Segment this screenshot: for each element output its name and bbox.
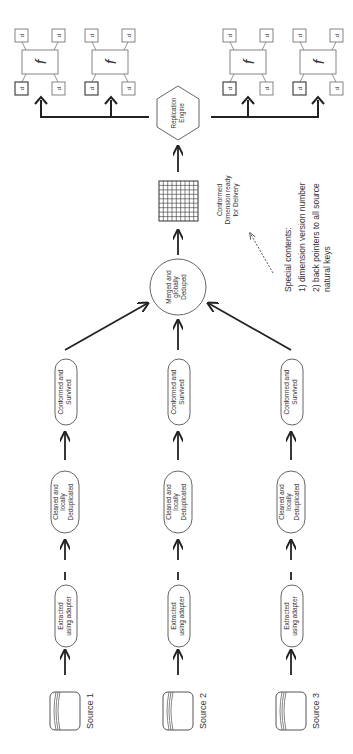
extract-step: Extracted using adapter [168, 585, 190, 647]
svg-text:Survived: Survived [178, 379, 185, 405]
svg-text:Deduplicated: Deduplicated [180, 483, 188, 520]
database-cylinder-icon [276, 692, 306, 730]
dimension-icon: d [334, 87, 340, 90]
source-2-column: Source 2 Extracted using adapter Cleaned… [163, 359, 208, 730]
svg-text:Deduplicated: Deduplicated [67, 483, 75, 520]
database-cylinder-icon [50, 692, 80, 730]
dimension-flow-diagram: Source 1 Extracted using adapter Cleaned… [0, 0, 353, 754]
star-schema-4: f d d d d [293, 29, 343, 95]
annotation-pointer [250, 233, 273, 273]
svg-text:Extracted: Extracted [170, 602, 177, 630]
svg-text:Extracted: Extracted [57, 602, 64, 630]
dimension-icon: d [126, 34, 132, 37]
svg-text:Dimension ready: Dimension ready [224, 175, 232, 225]
arrow-to-merge [208, 303, 291, 350]
svg-text:for Delivery: for Delivery [232, 183, 240, 217]
dimension-table-grid-icon [159, 181, 198, 221]
clean-step: Cleaned and locally Deduplicated [51, 471, 79, 533]
svg-text:Survived: Survived [291, 379, 298, 405]
conformed-dimension-label: Conformed Dimension ready for Delivery [216, 175, 240, 225]
svg-text:Cleaned and: Cleaned and [278, 484, 285, 520]
replication-engine: Replication Engine [157, 86, 199, 140]
clean-step: Cleaned and locally Deduplicated [277, 471, 305, 533]
arrow-to-merge [65, 303, 148, 350]
dimension-icon: d [89, 34, 95, 37]
dimension-icon: d [334, 34, 340, 37]
svg-text:Cleaned and: Cleaned and [165, 484, 172, 520]
star-schema-2: f d d d d [85, 29, 135, 95]
dimension-icon: d [19, 87, 25, 90]
conform-step: Conformed and Survived [168, 359, 190, 425]
dimension-icon: d [297, 34, 303, 37]
svg-text:globally: globally [172, 275, 180, 297]
svg-text:natural keys: natural keys [322, 246, 332, 292]
dimension-icon: d [56, 34, 62, 37]
source-label: Source 1 [85, 693, 95, 729]
svg-text:using adapter: using adapter [178, 595, 186, 635]
svg-text:2) back pointers to all source: 2) back pointers to all source [311, 183, 321, 292]
svg-text:Deduplicated: Deduplicated [293, 483, 301, 520]
dimension-icon: d [56, 87, 62, 90]
dimension-icon: d [19, 34, 25, 37]
dimension-icon: d [89, 87, 95, 90]
dimension-icon: d [227, 87, 233, 90]
dimension-icon: d [126, 87, 132, 90]
extract-step: Extracted using adapter [281, 585, 303, 647]
database-cylinder-icon [163, 692, 193, 730]
svg-text:Replication: Replication [170, 97, 178, 129]
extract-step: Extracted using adapter [55, 585, 77, 647]
source-label: Source 3 [311, 693, 321, 729]
source-label: Source 2 [198, 693, 208, 729]
source-1-column: Source 1 Extracted using adapter Cleaned… [50, 359, 95, 730]
svg-text:locally: locally [59, 492, 67, 510]
svg-text:Conformed: Conformed [216, 184, 223, 217]
svg-text:using adapter: using adapter [291, 595, 299, 635]
svg-text:Conformed and: Conformed and [170, 369, 177, 414]
svg-text:locally: locally [172, 492, 180, 510]
conform-step: Conformed and Survived [281, 359, 303, 425]
star-schema-3: f d d d d [223, 29, 273, 95]
star-schema-1: f d d d d [15, 29, 65, 95]
svg-text:Conformed and: Conformed and [57, 369, 64, 414]
source-3-column: Source 3 Extracted using adapter Cleaned… [276, 359, 321, 730]
svg-text:Conformed and: Conformed and [283, 369, 290, 414]
merge-step: Merged and globally Deduped [150, 259, 206, 315]
svg-text:Extracted: Extracted [283, 602, 290, 630]
conform-step: Conformed and Survived [55, 359, 77, 425]
svg-text:Engine: Engine [178, 103, 186, 123]
dimension-icon: d [227, 34, 233, 37]
svg-text:using adapter: using adapter [65, 595, 73, 635]
svg-text:Special contents:: Special contents: [283, 227, 293, 292]
svg-text:1) dimension version number: 1) dimension version number [297, 182, 307, 292]
svg-text:Survived: Survived [65, 379, 72, 405]
svg-text:Deduped: Deduped [180, 274, 188, 300]
svg-text:locally: locally [285, 492, 293, 510]
dimension-icon: d [264, 87, 270, 90]
svg-text:Cleaned and: Cleaned and [52, 484, 59, 520]
dimension-icon: d [297, 87, 303, 90]
clean-step: Cleaned and locally Deduplicated [164, 471, 192, 533]
dimension-icon: d [264, 34, 270, 37]
special-contents-note: Special contents: 1) dimension version n… [283, 182, 332, 292]
